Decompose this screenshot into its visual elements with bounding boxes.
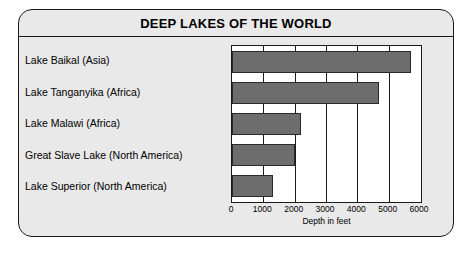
x-tick-label-1000: 1000 — [253, 204, 272, 214]
chart-title-band: DEEP LAKES OF THE WORLD — [19, 10, 453, 37]
bar-lake-superior — [232, 175, 273, 197]
category-label-1: Lake Tanganyika (Africa) — [25, 77, 229, 109]
bar-slot-0 — [232, 46, 421, 77]
x-tick-label-4000: 4000 — [347, 204, 366, 214]
bar-slot-1 — [232, 77, 421, 108]
bar-slot-2 — [232, 108, 421, 139]
category-label-2: Lake Malawi (Africa) — [25, 108, 229, 140]
bar-slot-4 — [232, 171, 421, 202]
chart-card: DEEP LAKES OF THE WORLD Lake Baikal (Asi… — [18, 9, 454, 237]
x-tick-label-5000: 5000 — [378, 204, 397, 214]
x-tick-label-0: 0 — [229, 204, 234, 214]
page-title: DEEP LAKES OF THE WORLD — [140, 16, 331, 31]
x-axis-title: Depth in feet — [231, 216, 422, 226]
bars-layer — [232, 46, 421, 202]
chart-body: Lake Baikal (Asia) Lake Tanganyika (Afri… — [19, 37, 453, 236]
bar-lake-baikal — [232, 51, 411, 73]
bar-lake-malawi — [232, 113, 301, 135]
bar-great-slave-lake — [232, 144, 295, 166]
category-label-0: Lake Baikal (Asia) — [25, 45, 229, 77]
x-tick-label-2000: 2000 — [284, 204, 303, 214]
x-tick-label-6000: 6000 — [410, 204, 429, 214]
category-label-4: Lake Superior (North America) — [25, 171, 229, 203]
category-label-column: Lake Baikal (Asia) Lake Tanganyika (Afri… — [25, 45, 229, 203]
plot-area — [231, 45, 422, 203]
bar-lake-tanganyika — [232, 82, 379, 104]
category-label-3: Great Slave Lake (North America) — [25, 140, 229, 172]
screenshot-root: DEEP LAKES OF THE WORLD Lake Baikal (Asi… — [0, 0, 476, 253]
x-tick-label-3000: 3000 — [316, 204, 335, 214]
bar-slot-3 — [232, 140, 421, 171]
